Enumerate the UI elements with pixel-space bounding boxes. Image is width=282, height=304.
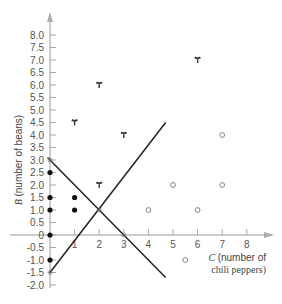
filled-dot-marker	[72, 195, 77, 200]
x-tick-label: 5	[170, 239, 176, 250]
y-tick-label: 8.0	[30, 30, 44, 41]
y-tick-label: 1.5	[30, 192, 44, 203]
open-circle-marker	[220, 133, 225, 138]
filled-dot-marker	[47, 232, 52, 237]
intercept-star-icon	[121, 233, 126, 238]
y-axis-title: B (number of beans)	[13, 115, 24, 205]
y-tick-label: 0	[38, 230, 44, 241]
filled-dot-marker	[47, 170, 52, 175]
y-tick-label: 4.5	[30, 117, 44, 128]
y-tick-label: 1.0	[30, 205, 44, 216]
star-marker-icon	[72, 120, 78, 126]
x-axis-title-line: chili peppers)	[211, 264, 266, 276]
decision-line	[48, 158, 166, 278]
intercept-star-icon	[97, 208, 102, 213]
y-tick-label: 4.0	[30, 130, 44, 141]
y-tick-label: -1.5	[27, 267, 45, 278]
filled-dot-marker	[72, 207, 77, 212]
y-tick-label: 2.0	[30, 180, 44, 191]
y-tick-label: -2.0	[27, 280, 45, 291]
y-tick-label: 6.0	[30, 80, 44, 91]
y-tick-label: 3.5	[30, 142, 44, 153]
x-tick-label: 4	[146, 239, 152, 250]
filled-dot-marker	[47, 257, 52, 262]
y-tick-label: 0.5	[30, 217, 44, 228]
open-circle-marker	[171, 183, 176, 188]
y-tick-label: 6.5	[30, 67, 44, 78]
filled-dot-marker	[47, 207, 52, 212]
open-circle-marker	[220, 183, 225, 188]
x-tick-label: 3	[121, 239, 127, 250]
filled-dot-marker	[47, 195, 52, 200]
axes	[10, 12, 274, 288]
x-tick-label: 7	[219, 239, 225, 250]
y-tick-label: -0.5	[27, 242, 45, 253]
y-tick-label: 3.0	[30, 155, 44, 166]
star-marker-icon	[96, 182, 102, 188]
y-tick-label: 7.0	[30, 55, 44, 66]
intercept-star-icon	[48, 270, 53, 275]
x-tick-label: 6	[195, 239, 201, 250]
y-tick-label: 2.5	[30, 167, 44, 178]
y-tick-label: 7.5	[30, 42, 44, 53]
y-tick-label: -1.0	[27, 255, 45, 266]
star-marker-icon	[96, 82, 102, 88]
x-tick-label: 2	[96, 239, 102, 250]
decision-line	[50, 123, 166, 273]
open-circle-marker	[146, 208, 151, 213]
star-marker-icon	[195, 57, 201, 63]
intercept-star-icon	[48, 158, 53, 163]
open-circle-marker	[183, 258, 188, 263]
x-axis-arrow-icon	[264, 232, 274, 238]
scatter-chart: 8.07.57.06.56.05.55.04.54.03.53.02.52.01…	[0, 0, 282, 304]
y-axis-arrow-icon	[47, 12, 53, 22]
open-circle-marker	[195, 208, 200, 213]
x-axis-title-line: C (number of	[208, 252, 266, 263]
y-tick-label: 5.5	[30, 92, 44, 103]
star-marker-icon	[121, 132, 127, 138]
decision-lines	[48, 123, 166, 278]
x-tick-label: 8	[244, 239, 250, 250]
y-tick-label: 5.0	[30, 105, 44, 116]
